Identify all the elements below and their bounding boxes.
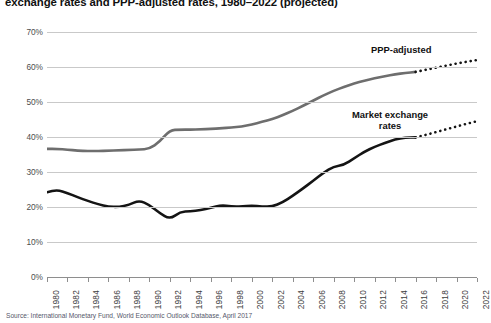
x-axis-tick-label: 2002: [276, 290, 286, 309]
x-axis-tick-mark: [313, 278, 314, 282]
x-axis-tick-label: 2022: [481, 290, 491, 309]
x-axis-tick-mark: [477, 278, 478, 282]
x-axis-tick-label: 2004: [296, 290, 306, 309]
y-axis-tick-label: 40%: [9, 133, 43, 141]
gridline: [47, 67, 477, 68]
x-axis-tick-mark: [170, 278, 171, 282]
x-axis-tick-label: 1988: [132, 290, 142, 309]
x-axis-tick-label: 1992: [173, 290, 183, 309]
series-line-market-exchange-rates: [47, 137, 416, 217]
x-axis-tick-mark: [354, 278, 355, 282]
x-axis-tick-mark: [375, 278, 376, 282]
gridline: [47, 32, 477, 33]
x-axis-tick-label: 2014: [399, 290, 409, 309]
x-axis-tick-mark: [67, 278, 68, 282]
gridline: [47, 102, 477, 103]
gridline: [47, 172, 477, 173]
x-axis-tick-label: 1994: [194, 290, 204, 309]
x-axis-tick-mark: [108, 278, 109, 282]
x-axis-tick-mark: [47, 278, 48, 282]
series-lines: [47, 32, 477, 277]
x-axis-tick-label: 2008: [337, 290, 347, 309]
y-axis-tick-label: 0%: [9, 273, 43, 281]
y-axis-tick-label: 20%: [9, 203, 43, 211]
x-axis-tick-label: 1990: [153, 290, 163, 309]
x-axis-tick-label: 2018: [440, 290, 450, 309]
x-axis-tick-mark: [88, 278, 89, 282]
y-axis-tick-label: 60%: [9, 63, 43, 71]
x-axis-tick-mark: [416, 278, 417, 282]
x-axis-tick-label: 1982: [71, 290, 81, 309]
x-axis-tick-label: 1998: [235, 290, 245, 309]
x-axis-tick-label: 2012: [378, 290, 388, 309]
x-axis-tick-mark: [149, 278, 150, 282]
x-axis-tick-mark: [211, 278, 212, 282]
plot-area: [47, 32, 477, 277]
x-axis-tick-label: 1986: [112, 290, 122, 309]
gridline: [47, 137, 477, 138]
x-axis-tick-mark: [231, 278, 232, 282]
series-label-market-exchange-rates: Market exchange rates: [352, 109, 428, 131]
x-axis-tick-mark: [293, 278, 294, 282]
y-axis-tick-label: 70%: [9, 28, 43, 36]
x-axis-tick-label: 2000: [255, 290, 265, 309]
gridline: [47, 207, 477, 208]
x-axis-tick-mark: [334, 278, 335, 282]
x-axis-tick-label: 2010: [358, 290, 368, 309]
x-axis-tick-mark: [436, 278, 437, 282]
series-line-ppp-adjusted-projected: [416, 60, 477, 72]
y-axis-tick-label: 50%: [9, 98, 43, 106]
gridline: [47, 242, 477, 243]
x-axis-tick-label: 1996: [214, 290, 224, 309]
x-axis-tick-label: 1984: [91, 290, 101, 309]
x-axis-tick-label: 2016: [419, 290, 429, 309]
x-axis-tick-label: 1980: [51, 290, 61, 309]
series-label-ppp-adjusted: PPP-adjusted: [371, 44, 431, 55]
x-axis-tick-mark: [190, 278, 191, 282]
source-note: Source: International Monetary Fund, Wor…: [6, 312, 476, 320]
x-axis-tick-label: 2006: [317, 290, 327, 309]
y-axis-labels: 0%10%20%30%40%50%60%70%: [5, 32, 43, 277]
x-axis-tick-mark: [129, 278, 130, 282]
chart-title: exchange rates and PPP-adjusted rates, 1…: [5, 0, 465, 9]
y-axis-tick-label: 30%: [9, 168, 43, 176]
y-axis-tick-label: 10%: [9, 238, 43, 246]
x-axis-tick-mark: [272, 278, 273, 282]
x-axis-tick-mark: [252, 278, 253, 282]
x-axis-tick-mark: [457, 278, 458, 282]
x-axis-tick-mark: [395, 278, 396, 282]
x-axis-tick-label: 2020: [460, 290, 470, 309]
